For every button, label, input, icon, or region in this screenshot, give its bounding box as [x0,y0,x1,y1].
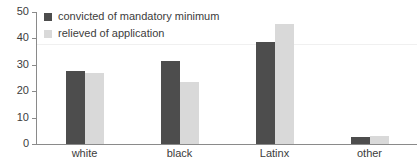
bar-black-series-1 [180,82,199,144]
legend-item-relieved: relieved of application [44,26,219,41]
y-axis-tick [32,91,37,92]
chart-legend: convicted of mandatory minimum relieved … [44,9,219,43]
y-axis-tick [32,65,37,66]
y-axis-tick [32,144,37,145]
y-axis-tick [32,118,37,119]
y-axis-tick-label: 50 [0,6,29,17]
legend-label-series-1: relieved of application [58,28,164,39]
bar-white-series-1 [85,73,104,144]
legend-swatch-icon-series-1 [44,30,52,38]
legend-item-convicted: convicted of mandatory minimum [44,9,219,24]
x-axis-label-Latinx: Latinx [235,148,315,159]
y-axis-tick [32,12,37,13]
x-axis-line [36,144,417,145]
legend-swatch-icon-series-0 [44,13,52,21]
bar-chart: 01020304050 whiteblackLatinxother convic… [0,0,417,167]
bar-black-series-0 [161,61,180,144]
y-axis-tick-label: 40 [0,32,29,43]
y-axis-tick [32,38,37,39]
bar-other-series-0 [351,137,370,144]
bar-Latinx-series-0 [256,42,275,144]
bar-white-series-0 [66,71,85,144]
y-axis-tick-label: 0 [0,138,29,149]
x-axis-label-white: white [45,148,125,159]
y-axis-tick-label: 20 [0,85,29,96]
background-rule [37,44,417,45]
x-axis-label-other: other [330,148,410,159]
y-axis-tick-label: 30 [0,59,29,70]
bar-other-series-1 [370,136,389,144]
bar-Latinx-series-1 [275,24,294,144]
y-axis-tick-label: 10 [0,112,29,123]
legend-label-series-0: convicted of mandatory minimum [58,11,219,22]
y-axis-spine [36,12,37,145]
x-axis-label-black: black [140,148,220,159]
